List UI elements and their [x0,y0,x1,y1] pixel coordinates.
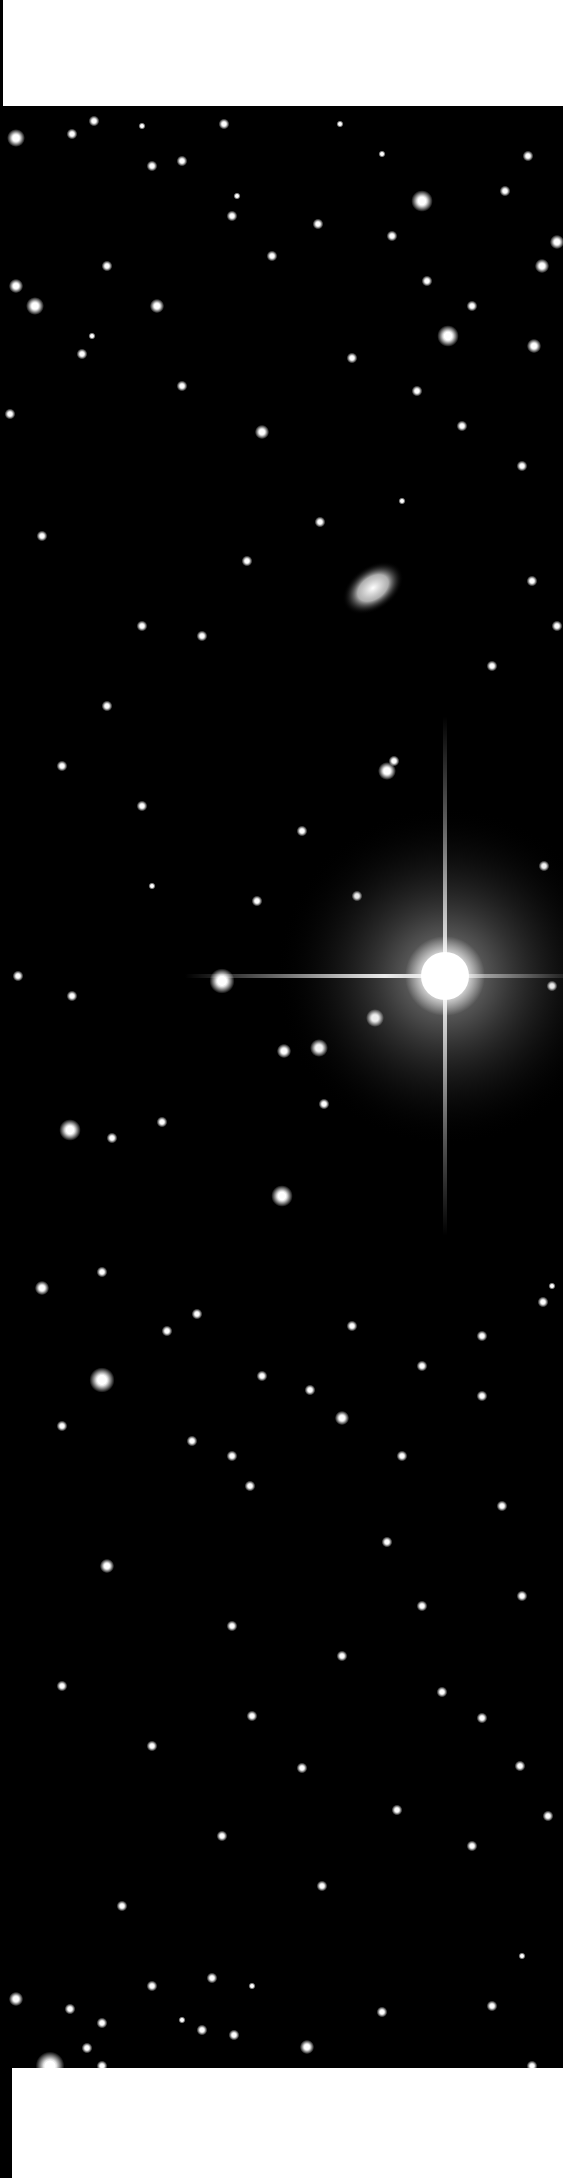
bright-star [185,716,563,1236]
star-field-canvas [2,106,563,2068]
galaxy [333,550,414,625]
star-field-photo [2,106,563,2068]
left-edge-strip-bottom [0,2068,12,2178]
